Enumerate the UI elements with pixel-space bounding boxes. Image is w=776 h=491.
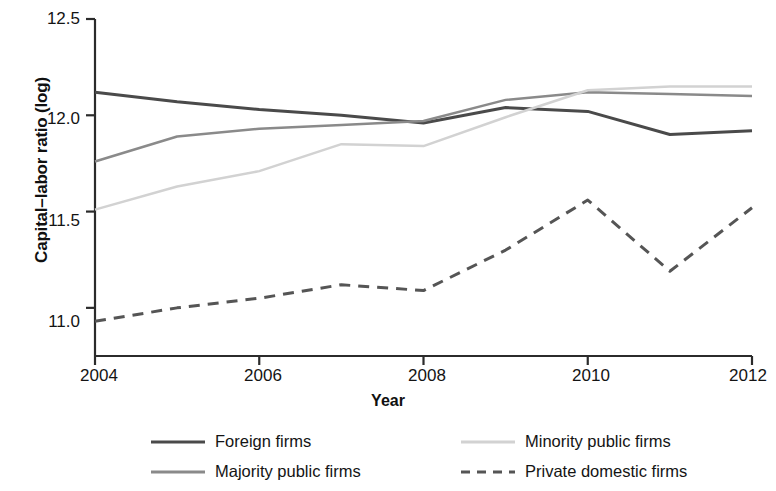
legend-label-minority-public-firms: Minority public firms (525, 433, 671, 450)
legend-item-majority-public-firms[interactable]: Majority public firms (150, 463, 450, 480)
series-line-minority-public-firms (95, 86, 752, 209)
chart-figure: Capital–labor ratio (log) Year 12.5 12.0… (0, 0, 776, 491)
y-axis-ticks (86, 19, 95, 308)
legend-swatch-private-domestic-firms (460, 464, 516, 478)
series-line-private-domestic-firms (95, 200, 752, 321)
x-axis-ticks (95, 356, 752, 365)
legend-swatch-majority-public-firms (150, 464, 206, 478)
legend-label-foreign-firms: Foreign firms (215, 433, 311, 450)
data-series-layer (95, 86, 752, 321)
chart-legend: Foreign firms Minority public firms Majo… (150, 426, 750, 486)
legend-label-private-domestic-firms: Private domestic firms (525, 463, 687, 480)
legend-swatch-foreign-firms (150, 434, 206, 448)
series-line-foreign-firms (95, 92, 752, 134)
legend-item-minority-public-firms[interactable]: Minority public firms (460, 433, 750, 450)
plot-area (0, 0, 776, 491)
legend-item-private-domestic-firms[interactable]: Private domestic firms (460, 463, 750, 480)
legend-swatch-minority-public-firms (460, 434, 516, 448)
legend-label-majority-public-firms: Majority public firms (215, 463, 361, 480)
legend-item-foreign-firms[interactable]: Foreign firms (150, 433, 450, 450)
axes (86, 19, 752, 365)
